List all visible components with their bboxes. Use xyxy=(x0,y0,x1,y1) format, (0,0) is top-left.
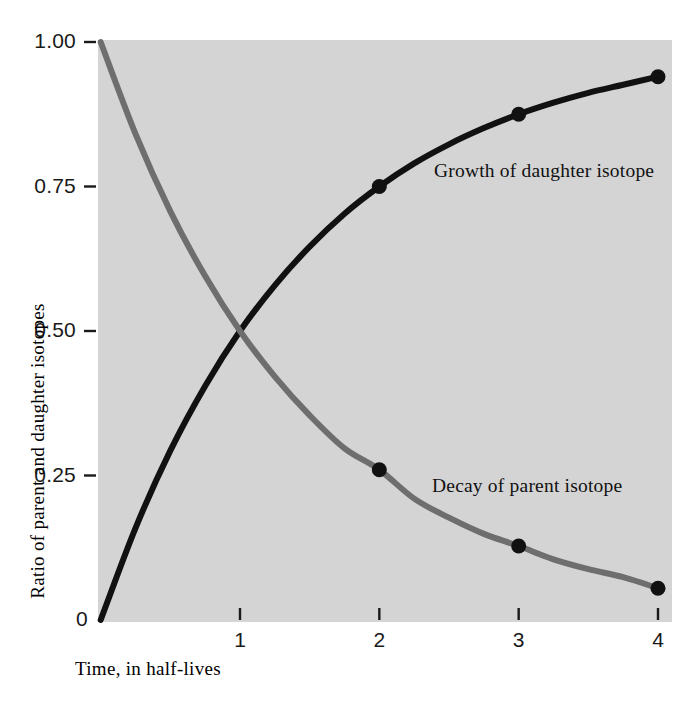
y-axis-title: Ratio of parent and daughter isotopes xyxy=(27,291,49,611)
data-point-marker xyxy=(511,107,526,122)
series-line-decay xyxy=(101,42,658,588)
data-point-marker xyxy=(651,581,666,596)
x-tick-label: 4 xyxy=(652,628,664,652)
series-annotation-decay: Decay of parent isotope xyxy=(432,475,622,497)
x-tick-label: 2 xyxy=(373,628,385,652)
series-markers-group xyxy=(372,69,666,596)
chart-figure: 00.250.500.751.00 1234 Time, in half-liv… xyxy=(0,0,686,702)
data-point-marker xyxy=(511,539,526,554)
x-tick-label: 1 xyxy=(234,628,246,652)
y-tick-label: 1.00 xyxy=(34,29,76,53)
data-point-marker xyxy=(372,462,387,477)
data-point-marker xyxy=(651,69,666,84)
x-tick-label: 3 xyxy=(513,628,525,652)
y-tick-label: 0 xyxy=(76,607,88,631)
x-axis-title: Time, in half-lives xyxy=(75,658,221,680)
x-axis-tick-marks xyxy=(240,608,658,620)
chart-canvas xyxy=(0,0,686,702)
series-line-growth xyxy=(101,77,658,620)
series-annotation-growth: Growth of daughter isotope xyxy=(434,160,654,182)
y-axis-tick-marks xyxy=(84,42,96,476)
series-lines-group xyxy=(101,42,658,620)
y-tick-label: 0.75 xyxy=(34,174,76,198)
data-point-marker xyxy=(372,179,387,194)
